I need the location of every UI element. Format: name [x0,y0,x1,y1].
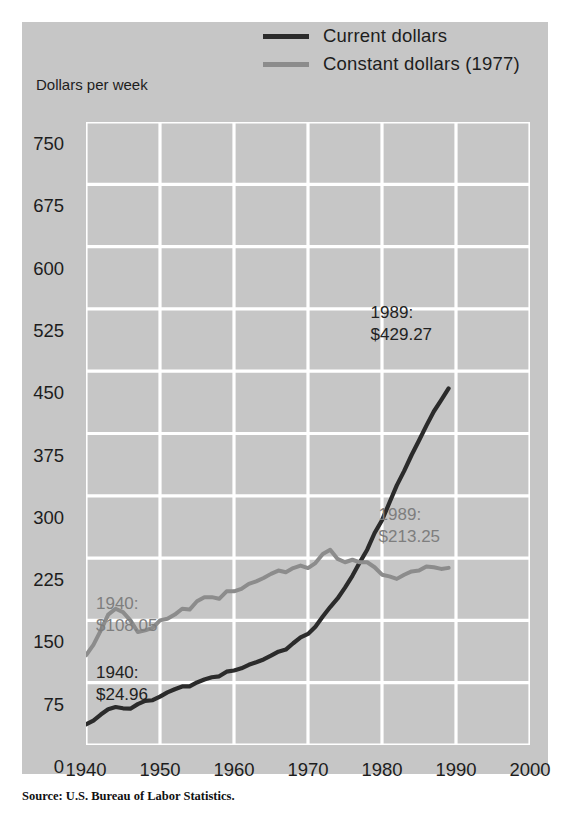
x-axis-tick-1990: 1990 [435,759,476,781]
annotation-line: 1989: [379,504,440,526]
annotation-current-1989: 1989:$429.27 [371,302,432,346]
legend-swatch-current-dollars [263,34,309,39]
legend-item-constant: Constant dollars (1977) [263,50,543,78]
y-axis-tick-600: 600 [0,258,64,280]
legend-label-constant-dollars: Constant dollars (1977) [323,53,520,75]
annotation-constant-1989: 1989:$213.25 [379,504,440,548]
x-axis-tick-2000: 2000 [509,759,550,781]
annotation-line: $429.27 [371,324,432,346]
legend-label-current-dollars: Current dollars [323,25,447,47]
chart-legend: Current dollars Constant dollars (1977) [263,22,543,80]
annotation-line: 1940: [96,662,148,684]
annotation-line: $24.96 [96,684,148,706]
chart-svg [86,122,530,745]
y-axis-tick-150: 150 [0,631,64,653]
annotation-line: $213.25 [379,526,440,548]
y-axis-tick-75: 75 [0,694,64,716]
gridlines [86,122,530,745]
y-axis-tick-525: 525 [0,320,64,342]
y-axis-tick-675: 675 [0,195,64,217]
plot-area [86,122,530,745]
y-axis-tick-375: 375 [0,445,64,467]
chart-panel: Current dollars Constant dollars (1977) … [22,22,548,774]
annotation-line: 1989: [371,302,432,324]
source-note: Source: U.S. Bureau of Labor Statistics. [22,789,235,804]
legend-swatch-constant-dollars [263,62,309,67]
y-axis-tick-225: 225 [0,569,64,591]
y-axis-tick-450: 450 [0,382,64,404]
y-axis-label: Dollars per week [36,76,148,93]
annotation-line: 1940: [96,593,157,615]
x-axis-tick-1980: 1980 [361,759,402,781]
annotation-constant-1940: 1940:$108.05 [96,593,157,637]
y-axis-tick-0: 0 [0,756,64,778]
y-axis-tick-750: 750 [0,133,64,155]
annotation-line: $108.05 [96,615,157,637]
legend-item-current: Current dollars [263,22,543,50]
y-axis-tick-300: 300 [0,507,64,529]
annotation-current-1940: 1940:$24.96 [96,662,148,706]
x-axis-tick-1970: 1970 [287,759,328,781]
x-axis-tick-1960: 1960 [213,759,254,781]
x-axis-tick-1940: 1940 [65,759,106,781]
x-axis-tick-1950: 1950 [139,759,180,781]
